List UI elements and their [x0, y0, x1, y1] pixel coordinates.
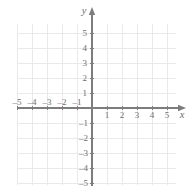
y-axis-tick-label: –3	[78, 148, 89, 158]
x-axis-tick-label: 2	[120, 110, 125, 120]
x-axis-tick-label: –2	[57, 97, 67, 107]
x-axis-tick-label: –4	[27, 97, 38, 107]
x-axis-label: x	[179, 109, 185, 120]
x-axis-tick-label: 3	[135, 110, 140, 120]
y-axis-tick-label: –1	[78, 118, 88, 128]
x-axis-tick-label: 5	[165, 110, 170, 120]
y-axis-label: y	[81, 5, 87, 16]
coordinate-plane-svg: –5–4–3–2–112345 54321–1–2–3–4–5 x y	[0, 0, 192, 193]
y-axis-tick-label: –5	[78, 178, 89, 188]
y-axis-tick-label: 2	[83, 73, 88, 83]
y-axis-tick-label: –4	[78, 163, 89, 173]
y-axis-tick-label: 1	[83, 88, 88, 98]
x-axis-tick-label: 1	[105, 110, 110, 120]
y-axis-tick-label: 3	[83, 58, 88, 68]
x-axis-tick-label: 4	[150, 110, 155, 120]
x-axis-tick-label: –1	[72, 97, 82, 107]
y-axis-tick-label: 5	[83, 28, 88, 38]
y-axis-tick-label: –2	[78, 133, 88, 143]
coordinate-plane-figure: –5–4–3–2–112345 54321–1–2–3–4–5 x y	[0, 0, 192, 193]
y-axis-tick-label: 4	[83, 43, 88, 53]
x-axis-tick-label: –5	[12, 97, 23, 107]
x-axis-tick-label: –3	[42, 97, 53, 107]
